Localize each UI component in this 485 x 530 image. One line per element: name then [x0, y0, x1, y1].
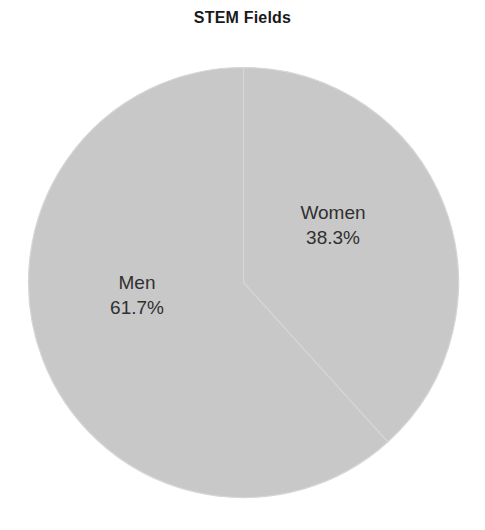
pie-slices-group [28, 68, 458, 498]
pie-chart-figure: STEM Fields Women 38.3% Men 61.7% [0, 0, 485, 530]
pie-chart-canvas [0, 0, 485, 530]
